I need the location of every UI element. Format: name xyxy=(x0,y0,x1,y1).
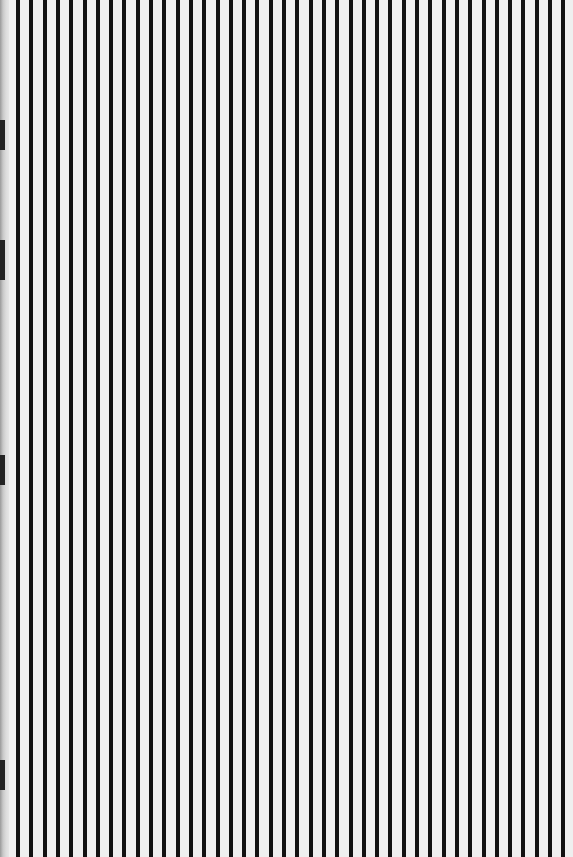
vertical-line xyxy=(335,0,339,857)
vertical-line xyxy=(428,0,432,857)
vertical-line xyxy=(109,0,113,857)
vertical-line xyxy=(176,0,180,857)
vertical-line xyxy=(561,0,565,857)
vertical-line xyxy=(415,0,419,857)
vertical-line xyxy=(69,0,73,857)
vertical-line xyxy=(362,0,366,857)
vertical-line xyxy=(295,0,299,857)
vertical-line xyxy=(349,0,353,857)
vertical-line-pattern xyxy=(0,0,573,857)
vertical-line xyxy=(375,0,379,857)
vertical-line xyxy=(535,0,539,857)
vertical-line xyxy=(242,0,246,857)
vertical-line xyxy=(282,0,286,857)
vertical-line xyxy=(508,0,512,857)
vertical-line xyxy=(216,0,220,857)
vertical-line xyxy=(136,0,140,857)
vertical-line xyxy=(202,0,206,857)
vertical-line xyxy=(149,0,153,857)
vertical-line xyxy=(269,0,273,857)
vertical-line xyxy=(322,0,326,857)
vertical-line xyxy=(482,0,486,857)
vertical-line xyxy=(122,0,126,857)
vertical-line xyxy=(548,0,552,857)
vertical-line xyxy=(521,0,525,857)
vertical-line xyxy=(43,0,47,857)
vertical-line xyxy=(442,0,446,857)
vertical-line xyxy=(29,0,33,857)
vertical-line xyxy=(309,0,313,857)
vertical-line xyxy=(229,0,233,857)
vertical-line xyxy=(56,0,60,857)
vertical-line xyxy=(402,0,406,857)
vertical-line xyxy=(189,0,193,857)
vertical-line xyxy=(16,0,20,857)
vertical-line xyxy=(162,0,166,857)
vertical-line xyxy=(468,0,472,857)
vertical-line xyxy=(388,0,392,857)
vertical-line xyxy=(83,0,87,857)
vertical-line xyxy=(255,0,259,857)
vertical-line xyxy=(455,0,459,857)
scanned-page xyxy=(0,0,573,857)
vertical-line xyxy=(96,0,100,857)
vertical-line xyxy=(495,0,499,857)
